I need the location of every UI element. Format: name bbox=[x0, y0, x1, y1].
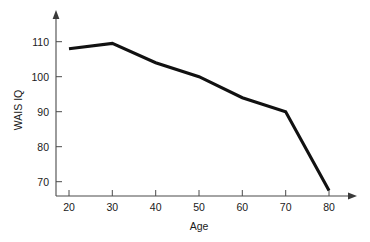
chart-figure: 110 100 90 80 70 20 30 40 50 60 70 80 Ag… bbox=[0, 0, 370, 242]
x-axis-arrow-icon bbox=[348, 193, 357, 200]
y-tick-label-100: 100 bbox=[31, 71, 49, 83]
y-tick-label-80: 80 bbox=[37, 141, 49, 153]
data-series-line bbox=[69, 43, 329, 190]
x-tick-label-30: 30 bbox=[106, 201, 118, 213]
x-axis-title: Age bbox=[190, 220, 209, 232]
line-chart-canvas: 110 100 90 80 70 20 30 40 50 60 70 80 Ag… bbox=[0, 0, 370, 242]
y-tick-label-70: 70 bbox=[37, 176, 49, 188]
y-tick-label-90: 90 bbox=[37, 106, 49, 118]
x-tick-label-40: 40 bbox=[150, 201, 162, 213]
y-axis-title: WAIS IQ bbox=[12, 90, 24, 130]
x-tick-label-50: 50 bbox=[193, 201, 205, 213]
x-tick-label-80: 80 bbox=[323, 201, 335, 213]
x-tick-label-60: 60 bbox=[236, 201, 248, 213]
y-axis-arrow-icon bbox=[53, 10, 60, 19]
x-tick-label-70: 70 bbox=[280, 201, 292, 213]
y-tick-label-110: 110 bbox=[32, 36, 49, 48]
x-tick-label-20: 20 bbox=[63, 201, 75, 213]
